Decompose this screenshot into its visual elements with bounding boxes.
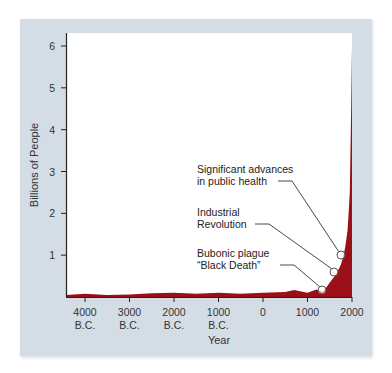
y-ticks: 123456 bbox=[49, 40, 66, 261]
x-tick-era: B.C. bbox=[75, 319, 95, 331]
y-tick-label: 3 bbox=[49, 166, 55, 178]
annotation-label: Revolution bbox=[197, 218, 247, 230]
x-tick-label: 2000 bbox=[340, 306, 364, 318]
x-tick-label: 2000 bbox=[162, 306, 186, 318]
annotation-label: Significant advances bbox=[197, 163, 293, 175]
annotation-label: “Black Death” bbox=[197, 259, 261, 271]
y-tick-label: 6 bbox=[49, 40, 55, 52]
annotation-marker bbox=[337, 251, 345, 259]
annotation-marker bbox=[318, 286, 326, 294]
x-tick-era: B.C. bbox=[164, 319, 184, 331]
y-tick-label: 5 bbox=[49, 82, 55, 94]
annotation-label: Bubonic plague bbox=[197, 247, 270, 259]
x-tick-era: B.C. bbox=[119, 319, 139, 331]
x-tick-label: 3000 bbox=[118, 306, 142, 318]
annotation-label: in public health bbox=[197, 175, 267, 187]
annotation-marker bbox=[330, 268, 338, 276]
x-axis-title: Year bbox=[208, 334, 231, 346]
x-ticks: 4000B.C.3000B.C.2000B.C.1000B.C.01000200… bbox=[73, 297, 364, 331]
y-tick-label: 4 bbox=[49, 124, 55, 136]
x-tick-label: 1000 bbox=[296, 306, 320, 318]
x-tick-label: 1000 bbox=[207, 306, 231, 318]
x-tick-era: B.C. bbox=[208, 319, 228, 331]
y-tick-label: 1 bbox=[49, 249, 55, 261]
annotation-label: Industrial bbox=[197, 206, 240, 218]
y-axis-title: Billions of People bbox=[28, 123, 40, 207]
population-chart: Significant advancesin public healthIndu… bbox=[0, 0, 392, 373]
x-tick-label: 4000 bbox=[73, 306, 97, 318]
y-tick-label: 2 bbox=[49, 207, 55, 219]
x-tick-label: 0 bbox=[260, 306, 266, 318]
